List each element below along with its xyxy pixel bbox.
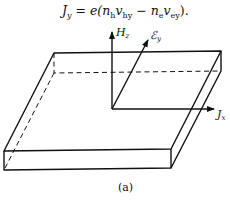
ey-arrow xyxy=(112,40,148,109)
ey-label: ℰy xyxy=(150,29,161,43)
jx-label: Jx xyxy=(217,108,225,122)
hz-label: Hz xyxy=(116,26,129,40)
figure-caption: (a) xyxy=(118,181,133,194)
slab-hidden-back-edge xyxy=(54,53,221,73)
slab-front-face xyxy=(4,149,171,170)
slab-hidden-left-edge xyxy=(4,73,54,170)
hall-effect-slab-diagram xyxy=(0,0,230,204)
